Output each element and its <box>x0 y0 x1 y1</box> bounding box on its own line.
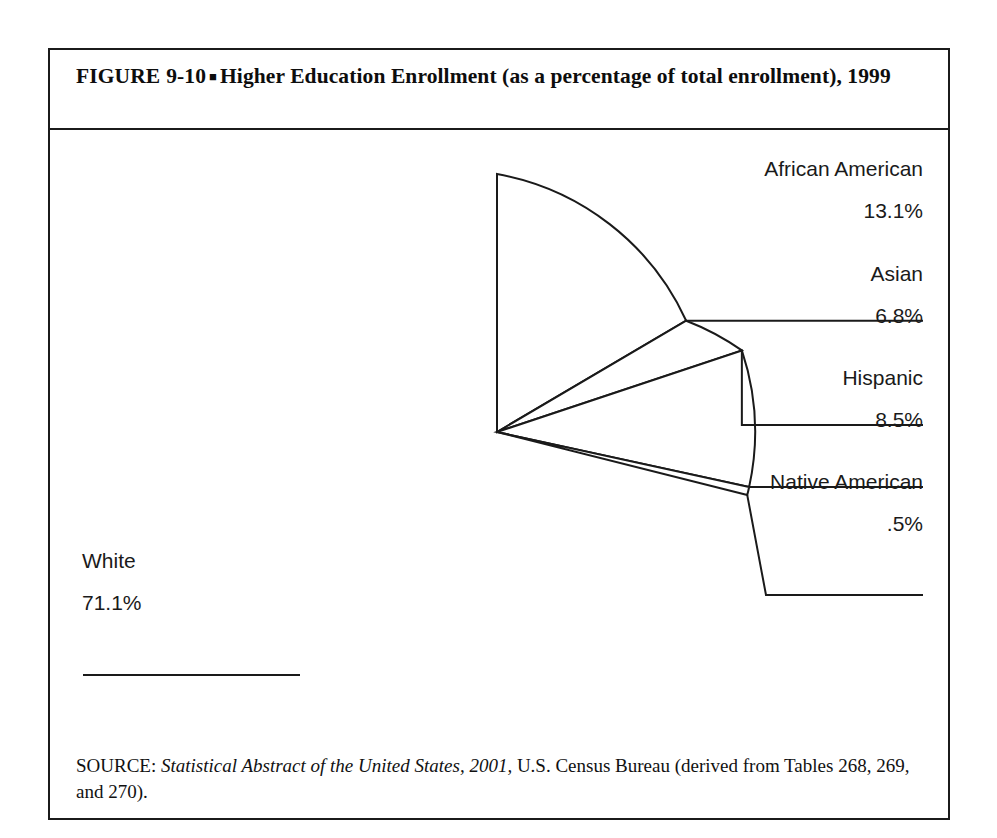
callout-label-native-american: Native American <box>603 468 923 495</box>
callout-white[interactable]: White 71.1% <box>82 547 402 616</box>
figure-frame: FIGURE9-10■Higher Education Enrollment (… <box>48 48 950 820</box>
callout-value-hispanic: 8.5% <box>603 406 923 433</box>
source-prefix: SOURCE: <box>76 755 156 776</box>
figure-label: FIGURE <box>76 64 160 88</box>
callout-label-asian: Asian <box>603 260 923 287</box>
figure-number: 9-10 <box>160 64 206 88</box>
callout-value-white: 71.1% <box>82 589 402 616</box>
callout-label-hispanic: Hispanic <box>603 364 923 391</box>
callout-value-native-american: .5% <box>603 510 923 537</box>
page-title: FIGURE9-10■Higher Education Enrollment (… <box>76 62 922 91</box>
source-publication: Statistical Abstract of the United State… <box>161 755 512 776</box>
figure-title-block: FIGURE9-10■Higher Education Enrollment (… <box>50 50 948 130</box>
source-text: SOURCE: Statistical Abstract of the Unit… <box>76 753 920 805</box>
figure-title-text: Higher Education Enrollment (as a percen… <box>220 64 891 88</box>
source-note: SOURCE: Statistical Abstract of the Unit… <box>50 741 948 818</box>
callout-label-white: White <box>82 547 402 574</box>
callout-label-african-american: African American <box>603 155 923 182</box>
callout-asian[interactable]: Asian 6.8% <box>603 260 923 329</box>
callout-hispanic[interactable]: Hispanic 8.5% <box>603 364 923 433</box>
callout-value-asian: 6.8% <box>603 302 923 329</box>
callout-native-american[interactable]: Native American .5% <box>603 468 923 537</box>
callout-african-american[interactable]: African American 13.1% <box>603 155 923 224</box>
pie-chart-area: African American 13.1% Asian 6.8% Hispan… <box>50 130 948 745</box>
bullet-square-icon: ■ <box>206 69 220 84</box>
callout-value-african-american: 13.1% <box>603 197 923 224</box>
